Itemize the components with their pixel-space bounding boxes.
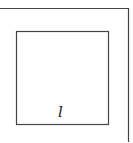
diagram-svg	[0, 0, 133, 142]
side-length-label: l	[58, 105, 63, 120]
diagram-canvas: l	[0, 0, 133, 142]
outer-square	[0, 9, 129, 143]
